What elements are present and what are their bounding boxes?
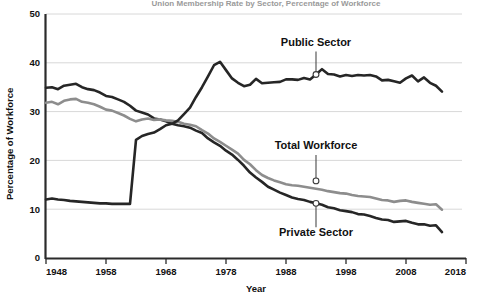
- series-label-public-sector: Public Sector: [281, 36, 352, 48]
- x-tick-2008: 2008: [395, 266, 416, 277]
- x-tick-2018: 2018: [445, 266, 466, 277]
- series-line-total-workforce: [46, 99, 442, 210]
- x-tick-labels: 19481958196819781988199820082018: [46, 258, 466, 277]
- data-series-group: [46, 62, 442, 232]
- leader-dot-total-workforce: [313, 178, 319, 184]
- x-tick-1988: 1988: [275, 266, 296, 277]
- y-tick-labels: 01020304050: [29, 8, 40, 263]
- leader-dot-public-sector: [313, 72, 319, 78]
- y-tick-20: 20: [29, 155, 40, 166]
- chart-title: Union Membership Rate by Sector, Percent…: [152, 0, 381, 8]
- x-tick-1948: 1948: [46, 266, 67, 277]
- series-line-public-sector: [46, 62, 442, 204]
- x-tick-1968: 1968: [155, 266, 176, 277]
- x-tick-1998: 1998: [335, 266, 356, 277]
- x-tick-1958: 1958: [95, 266, 116, 277]
- series-line-private-sector: [46, 84, 442, 232]
- y-tick-10: 10: [29, 204, 40, 215]
- y-axis: 01020304050: [29, 8, 45, 263]
- leader-dot-private-sector: [313, 200, 319, 206]
- series-label-private-sector: Private Sector: [279, 226, 354, 238]
- y-tick-30: 30: [29, 106, 40, 117]
- x-axis: 19481958196819781988199820082018: [46, 258, 467, 277]
- gridlines-group: [46, 14, 462, 209]
- y-axis-title: Percentage of Workforce: [4, 88, 15, 200]
- series-annotations-group: Public SectorTotal WorkforcePrivate Sect…: [275, 36, 358, 239]
- x-tick-1978: 1978: [215, 266, 236, 277]
- line-chart-figure: Union Membership Rate by Sector, Percent…: [0, 0, 484, 305]
- y-tick-50: 50: [29, 8, 40, 19]
- x-axis-title: Year: [246, 283, 266, 294]
- series-label-total-workforce: Total Workforce: [275, 139, 358, 151]
- y-tick-0: 0: [35, 252, 40, 263]
- chart-canvas: Union Membership Rate by Sector, Percent…: [0, 0, 484, 305]
- y-tick-40: 40: [29, 57, 40, 68]
